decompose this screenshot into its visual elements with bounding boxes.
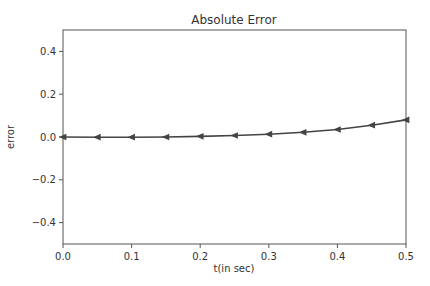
x-axis: 0.00.10.20.30.40.5	[55, 244, 414, 262]
y-tick-label: 0.4	[40, 46, 56, 57]
x-tick-label: 0.2	[192, 251, 208, 262]
y-tick-label: −0.2	[32, 174, 56, 185]
y-tick-label: −0.4	[32, 217, 56, 228]
y-axis-label: error	[5, 124, 16, 149]
y-tick-label: 0.2	[40, 89, 56, 100]
chart-title: Absolute Error	[191, 13, 277, 27]
x-tick-label: 0.1	[124, 251, 140, 262]
x-axis-label: t(in sec)	[214, 263, 255, 274]
x-tick-label: 0.5	[398, 251, 414, 262]
x-tick-label: 0.4	[329, 251, 345, 262]
triangle-left-marker	[265, 131, 273, 138]
x-tick-label: 0.0	[55, 251, 71, 262]
triangle-left-marker	[368, 122, 376, 129]
triangle-left-marker	[230, 132, 238, 139]
triangle-left-marker	[299, 129, 307, 136]
triangle-left-marker	[162, 134, 170, 141]
triangle-left-marker	[93, 134, 101, 141]
y-axis: −0.4−0.20.00.20.4	[32, 46, 63, 228]
chart: Absolute Error −0.4−0.20.00.20.4 0.00.10…	[0, 0, 430, 286]
data-series	[59, 117, 410, 141]
y-tick-label: 0.0	[40, 132, 56, 143]
triangle-left-marker	[127, 134, 135, 141]
triangle-left-marker	[196, 133, 204, 140]
x-tick-label: 0.3	[261, 251, 277, 262]
triangle-left-marker	[333, 126, 341, 133]
